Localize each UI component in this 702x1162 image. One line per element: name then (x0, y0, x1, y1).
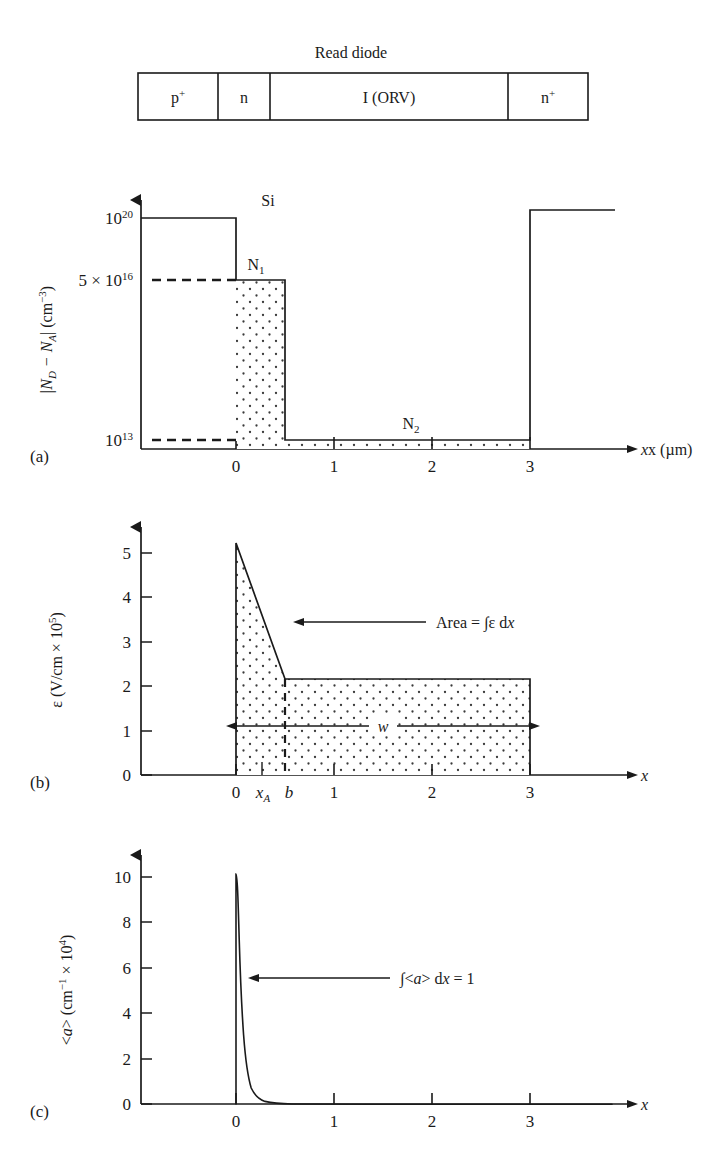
yc-p7: ) (58, 935, 76, 940)
panel-b-w-label: w (378, 718, 389, 735)
device-cell-n: n (240, 89, 248, 106)
ic-p4: x (441, 970, 449, 987)
panel-b-xlabel-3: 3 (526, 783, 535, 802)
panel-c-ylabel-10: 10 (114, 868, 131, 887)
ya-t1: 10 (105, 209, 122, 228)
panel-b-xlabel-2: 2 (428, 783, 437, 802)
panel-b-ylabel-2: 2 (123, 677, 132, 696)
figure-root: Read diode p+ n I (ORV) n+ (a) |ND − NA|… (0, 0, 702, 1162)
panel-c-x-axis-title: x (640, 1096, 648, 1113)
device-cell-n-plus-sup: + (549, 87, 555, 99)
ya-p6: −3 (36, 291, 48, 303)
xa-sub: A (262, 792, 270, 804)
ic-p5: = 1 (450, 970, 475, 987)
panel-c-ylabel-4: 4 (123, 1004, 132, 1023)
panel-b-ylabel-4: 4 (123, 588, 132, 607)
scientific-figure: Read diode p+ n I (ORV) n+ (a) |ND − NA|… (0, 0, 702, 1162)
panel-c-xlabel-3: 3 (526, 1112, 535, 1131)
panel-a-label: (a) (30, 447, 49, 466)
panel-b-ylabel-5: 5 (123, 544, 132, 563)
yb-p3: ) (48, 612, 66, 617)
panel-b-ylabel-3: 3 (123, 633, 132, 652)
ya-t2s: 16 (122, 270, 134, 282)
yc-p4: −1 (56, 979, 68, 991)
canvas-background (0, 0, 702, 1162)
yc-p5: × 10 (58, 946, 75, 979)
panel-c-integral-annotation: ∫<a> dx = 1 (399, 970, 475, 989)
device-cell-p-plus-label: p (171, 89, 179, 107)
ya-p2: D (46, 371, 58, 380)
device-cell-n-plus-label: n (541, 89, 549, 106)
ya-p5: | (cm (38, 302, 56, 335)
device-diagram-title: Read diode (315, 44, 387, 61)
ya-t2: 5 × 10 (78, 271, 122, 290)
panel-a-xlabel-1: 1 (330, 457, 339, 476)
yc-p3: > (cm (58, 990, 76, 1028)
panel-b-x-axis-title: x (640, 767, 648, 784)
panel-b-y-axis-title: ε (V/cm × 105) (46, 612, 66, 707)
panel-a-fill-n2 (285, 440, 530, 449)
yb-p1: ε (V/cm × 10 (48, 623, 66, 708)
n2-base: N (402, 415, 414, 432)
ya-p1: |N (38, 378, 56, 394)
panel-b-xlabel-0: 0 (232, 783, 241, 802)
panel-a-xlabel-0: 0 (232, 457, 241, 476)
area-tail: x (506, 614, 514, 631)
device-cell-i-orv: I (ORV) (363, 89, 415, 107)
ya-p3: − N (38, 340, 55, 371)
n1-base: N (247, 256, 259, 273)
ic-p1: ∫< (399, 970, 413, 989)
ya-t3s: 13 (122, 430, 134, 442)
panel-b-label: (b) (30, 773, 50, 792)
ic-p3: > d (421, 970, 442, 987)
panel-b-ylabel-1: 1 (123, 722, 132, 741)
n2-sub: 2 (414, 423, 420, 435)
panel-b-ylabel-0: 0 (123, 766, 132, 785)
ya-p7: ) (38, 286, 56, 291)
ya-t1s: 20 (122, 208, 134, 220)
panel-c-xlabel-1: 1 (330, 1112, 339, 1131)
panel-c-ylabel-2: 2 (123, 1050, 132, 1069)
device-cell-p-plus-sup: + (179, 87, 185, 99)
n1-sub: 1 (259, 264, 265, 276)
panel-c-xlabel-0: 0 (232, 1112, 241, 1131)
panel-a-si-label: Si (261, 192, 275, 209)
panel-c-label: (c) (30, 1102, 49, 1121)
ya-t3: 10 (105, 431, 122, 450)
panel-a-fill-n1 (236, 280, 285, 449)
panel-b-xlabel-1: 1 (330, 783, 339, 802)
panel-c-xlabel-2: 2 (428, 1112, 437, 1131)
area-text: Area = ∫ε d (436, 614, 507, 633)
panel-a-xlabel-2: 2 (428, 457, 437, 476)
panel-b-area-annotation: Area = ∫ε dx (436, 614, 514, 633)
panel-c-ylabel-0: 0 (123, 1095, 132, 1114)
ic-p2: a (413, 970, 421, 987)
panel-a-xlabel-3: 3 (526, 457, 535, 476)
panel-c-ylabel-6: 6 (123, 959, 132, 978)
panel-b-xlabel-b: b (285, 783, 294, 802)
yc-p1: < (58, 1036, 75, 1045)
yc-p2: a (58, 1028, 75, 1036)
panel-a-x-axis-title: xx (µm) (640, 441, 692, 459)
panel-c-ylabel-8: 8 (123, 913, 132, 932)
xa-full: x (µm) (648, 441, 692, 459)
